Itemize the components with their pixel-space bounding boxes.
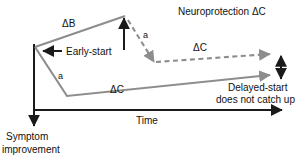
label-delayed-start-line1: Delayed-start (228, 82, 288, 93)
label-delta-c-dashed: ΔC (193, 42, 207, 53)
projected-plateau-dashed (156, 54, 270, 62)
label-delayed-start-line2: does not catch up (216, 94, 295, 105)
label-neuroprotection: Neuroprotection ΔC (178, 6, 266, 17)
schematic-diagram: ΔB Early-start a a ΔC ΔC Neuroprotection… (0, 0, 308, 158)
label-a-lower: a (58, 71, 63, 81)
label-y-axis-line2: improvement (2, 144, 60, 155)
label-delta-c-lower: ΔC (110, 84, 124, 95)
label-a-upper: a (143, 30, 148, 40)
label-y-axis-line1: Symptom (6, 131, 48, 142)
figure-canvas: ΔB Early-start a a ΔC ΔC Neuroprotection… (0, 0, 308, 158)
label-x-axis-time: Time (136, 115, 158, 126)
label-early-start: Early-start (66, 46, 112, 57)
early-start-rising-curve (35, 16, 125, 47)
label-delta-b: ΔB (62, 18, 76, 29)
projected-drop-dashed (128, 20, 154, 62)
